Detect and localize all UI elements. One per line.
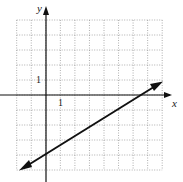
x-axis-label: x xyxy=(172,97,177,109)
x-tick-label: 1 xyxy=(58,97,63,108)
y-axis-arrow-icon xyxy=(43,6,49,15)
y-tick-label: 1 xyxy=(36,74,41,85)
line-arrow-upper-icon xyxy=(150,82,163,92)
coordinate-plane xyxy=(0,0,183,182)
y-axis-label: y xyxy=(37,2,42,14)
line-arrow-lower-icon xyxy=(19,160,32,171)
x-axis-arrow-icon xyxy=(164,92,172,98)
